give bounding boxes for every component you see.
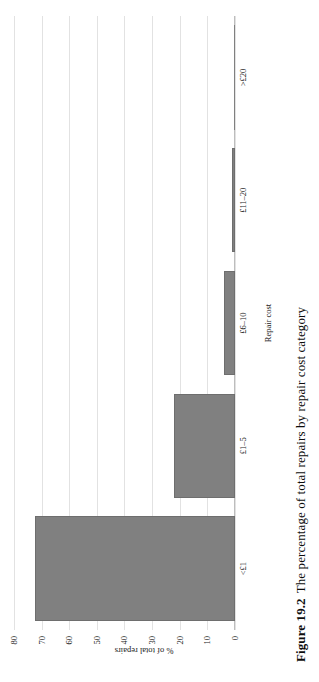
rotated-figure: % of total repairs 01020304050607080 <£1… (0, 0, 319, 682)
x-tick-label: £1–5 (239, 394, 255, 498)
y-tick-label: 40 (120, 636, 129, 645)
y-tick-label: 70 (37, 636, 46, 645)
x-axis-title: Repair cost (264, 16, 273, 630)
bar (35, 516, 235, 620)
figure-page: % of total repairs 01020304050607080 <£1… (0, 0, 319, 682)
figure-caption: Figure 19.2The percentage of total repai… (289, 0, 319, 682)
y-tick-label: 80 (10, 636, 19, 645)
gridline (235, 16, 236, 630)
x-tick-label: £11–20 (239, 148, 255, 252)
x-tick-label: £6–10 (239, 271, 255, 375)
bar-slot (14, 25, 235, 129)
bars-group (14, 16, 235, 630)
bar-slot (14, 148, 235, 252)
plot-wrapper: 01020304050607080 (14, 16, 235, 630)
plot-region: 01020304050607080 (14, 16, 235, 630)
y-tick-label: 50 (93, 636, 102, 645)
x-tick-label: >£20 (239, 25, 255, 129)
y-tick-label: 20 (175, 636, 184, 645)
bar (224, 271, 235, 375)
bar (174, 394, 235, 498)
bar-slot (14, 516, 235, 620)
bar-slot (14, 271, 235, 375)
y-axis-title: % of total repairs (115, 646, 174, 655)
chart-area: % of total repairs 01020304050607080 <£1… (0, 0, 289, 682)
bar-slot (14, 394, 235, 498)
bar (232, 148, 235, 252)
figure-caption-text: The percentage of total repairs by repai… (293, 307, 308, 593)
y-tick-label: 30 (148, 636, 157, 645)
y-tick-label: 10 (203, 636, 212, 645)
x-tick-label: <£1 (239, 516, 255, 620)
bar (234, 25, 235, 129)
figure-number: Figure 19.2 (293, 598, 308, 662)
y-tick-label: 60 (65, 636, 74, 645)
x-tick-labels-group: <£1£1–5£6–10£11–20>£20 (239, 16, 255, 630)
y-tick-label: 0 (231, 636, 240, 640)
